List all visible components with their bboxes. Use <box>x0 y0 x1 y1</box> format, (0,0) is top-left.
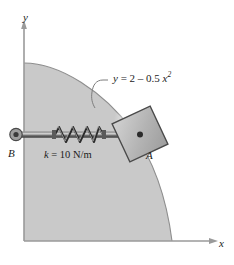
anchor-pin-B <box>10 128 22 140</box>
point-label-a: A <box>146 150 153 161</box>
mechanics-figure: y x B A y = 2 – 0.5 x2 k = 10 N/m <box>0 0 234 265</box>
curve-equation-label: y = 2 – 0.5 x2 <box>113 73 171 84</box>
x-axis-arrowhead <box>209 238 218 244</box>
x-axis-label: x <box>219 238 224 249</box>
curve-equation-exponent: 2 <box>168 70 172 79</box>
figure-canvas <box>0 0 234 265</box>
point-label-b: B <box>8 148 15 159</box>
spring-stiffness-label: k = 10 N/m <box>44 150 92 161</box>
y-axis-label: y <box>23 12 28 23</box>
curve-equation-body: = 2 – 0.5 <box>118 72 163 84</box>
block-center-dot <box>137 132 143 138</box>
spring-stiffness-value: = 10 N/m <box>49 149 92 160</box>
